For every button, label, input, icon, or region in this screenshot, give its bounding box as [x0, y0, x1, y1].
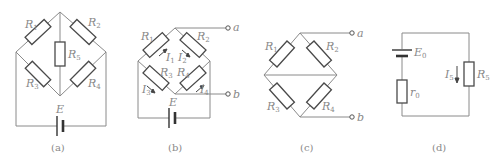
label-terminal-b: b [357, 111, 364, 124]
circuit-d: E0 r0 R5 I5 (d) [392, 33, 490, 153]
label-terminal-b: b [233, 88, 240, 101]
circuit-a: R1 R2 R3 R4 R5 E (a) [16, 12, 106, 153]
caption-d: (d) [432, 142, 446, 153]
label-r4: R4 [176, 66, 190, 80]
label-r4: R4 [321, 100, 335, 114]
label-r5: R5 [67, 48, 81, 62]
label-i5: I5 [444, 68, 454, 82]
label-r1: R1 [264, 40, 278, 54]
label-r3: R3 [159, 66, 173, 80]
resistor-r5 [55, 42, 65, 66]
resistor-r5 [464, 62, 474, 86]
circuit-c: a b R1 R2 R3 R4 (c) [264, 27, 364, 153]
label-r2: R2 [325, 40, 339, 54]
label-terminal-a: a [233, 21, 240, 34]
label-r0: r0 [410, 86, 420, 100]
label-r3: R3 [266, 100, 280, 114]
resistor-r1 [270, 41, 295, 67]
circuit-figures: R1 R2 R3 R4 R5 E (a) a b [0, 0, 495, 166]
caption-c: (c) [300, 142, 314, 153]
terminal-a [226, 26, 230, 30]
label-r2: R2 [87, 16, 101, 30]
caption-a: (a) [51, 142, 65, 153]
label-terminal-a: a [357, 27, 364, 40]
terminal-b [350, 115, 354, 119]
label-i4: I4 [199, 83, 209, 97]
label-e0: E0 [413, 46, 427, 60]
label-i1: I1 [165, 51, 175, 65]
resistor-r0 [397, 80, 407, 103]
label-e: E [168, 96, 177, 109]
label-r1: R1 [140, 30, 154, 44]
label-r4: R4 [87, 77, 101, 91]
label-r5: R5 [476, 68, 490, 82]
label-r2: R2 [196, 30, 210, 44]
label-e: E [55, 103, 64, 116]
label-i3: I3 [141, 83, 151, 97]
terminal-a [350, 31, 354, 35]
label-r1: R1 [24, 18, 38, 32]
terminal-b [226, 92, 230, 96]
circuit-b: a b R1 R2 R3 R4 I1 I2 I3 I4 E (b) [138, 21, 240, 153]
caption-b: (b) [168, 142, 182, 153]
